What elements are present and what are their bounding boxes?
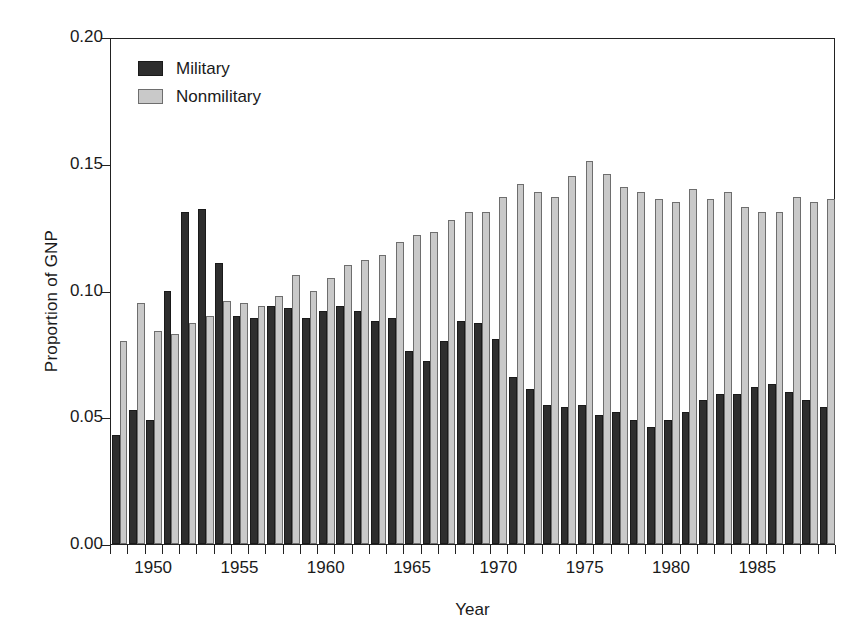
bar-military-1974: [561, 407, 569, 544]
bar-military-1965: [405, 351, 413, 544]
legend-label-nonmilitary: Nonmilitary: [176, 87, 261, 107]
x-tick-mark: [542, 545, 543, 554]
x-tick-mark: [283, 545, 284, 554]
x-tick-mark: [800, 545, 801, 554]
bar-nonmilitary-1979: [655, 199, 663, 544]
x-tick-mark: [818, 545, 819, 554]
bar-military-1978: [630, 420, 638, 544]
bar-nonmilitary-1951: [171, 334, 179, 544]
x-tick-mark: [593, 545, 594, 554]
x-tick-mark: [749, 545, 750, 554]
bar-military-1949: [129, 410, 137, 544]
bar-nonmilitary-1974: [568, 176, 576, 544]
legend-label-military: Military: [176, 59, 230, 79]
bar-military-1984: [733, 394, 741, 544]
bar-military-1980: [664, 420, 672, 544]
bar-military-1972: [526, 389, 534, 544]
bar-nonmilitary-1957: [275, 296, 283, 544]
x-tick-mark: [490, 545, 491, 554]
bar-nonmilitary-1963: [379, 255, 387, 544]
bar-nonmilitary-1988: [810, 202, 818, 544]
legend-swatch-nonmilitary-icon: [138, 89, 163, 104]
bar-military-1989: [820, 407, 828, 544]
x-tick-mark: [731, 545, 732, 554]
bar-nonmilitary-1972: [534, 192, 542, 544]
x-tick-mark: [403, 545, 404, 554]
x-tick-mark: [559, 545, 560, 554]
bar-military-1979: [647, 427, 655, 544]
bar-nonmilitary-1983: [724, 192, 732, 544]
bar-military-1982: [699, 400, 707, 544]
bar-military-1952: [181, 212, 189, 544]
x-tick-mark: [248, 545, 249, 554]
x-tick-mark: [196, 545, 197, 554]
x-tick-mark: [386, 545, 387, 554]
bar-military-1966: [423, 361, 431, 544]
bar-military-1948: [112, 435, 120, 544]
bar-nonmilitary-1984: [741, 207, 749, 544]
x-tick-mark: [127, 545, 128, 554]
x-tick-mark: [300, 545, 301, 554]
x-tick-mark: [680, 545, 681, 554]
x-tick-label-1955: 1955: [221, 558, 259, 578]
bar-military-1954: [215, 263, 223, 544]
bar-military-1957: [267, 306, 275, 544]
bar-military-1970: [492, 339, 500, 544]
bar-nonmilitary-1968: [465, 212, 473, 544]
bar-military-1950: [146, 420, 154, 544]
bar-nonmilitary-1977: [620, 187, 628, 544]
x-tick-mark: [352, 545, 353, 554]
bar-nonmilitary-1965: [413, 235, 421, 544]
bar-military-1973: [543, 405, 551, 544]
bar-nonmilitary-1961: [344, 265, 352, 544]
bar-military-1956: [250, 318, 258, 544]
x-tick-label-1970: 1970: [479, 558, 517, 578]
bar-military-1959: [302, 318, 310, 544]
y-tick-label: 0.15: [70, 154, 103, 174]
bar-military-1963: [371, 321, 379, 544]
bar-nonmilitary-1969: [482, 212, 490, 544]
bar-military-1977: [612, 412, 620, 544]
bar-nonmilitary-1959: [310, 291, 318, 545]
x-tick-mark: [317, 545, 318, 554]
bar-nonmilitary-1950: [154, 331, 162, 544]
bar-nonmilitary-1954: [223, 301, 231, 544]
bar-nonmilitary-1960: [327, 278, 335, 544]
x-tick-mark: [507, 545, 508, 554]
bar-nonmilitary-1973: [551, 197, 559, 544]
x-tick-label-1965: 1965: [393, 558, 431, 578]
x-tick-mark: [145, 545, 146, 554]
x-tick-mark: [162, 545, 163, 554]
bar-military-1986: [768, 384, 776, 544]
bar-military-1961: [336, 306, 344, 544]
x-tick-mark: [714, 545, 715, 554]
bar-military-1969: [474, 323, 482, 544]
bar-military-1976: [595, 415, 603, 544]
bar-nonmilitary-1955: [240, 303, 248, 544]
x-tick-mark: [214, 545, 215, 554]
chart-legend: Military Nonmilitary: [138, 58, 261, 114]
y-tick-label: 0.10: [70, 281, 103, 301]
legend-item-military: Military: [138, 58, 261, 79]
bar-military-1985: [751, 387, 759, 544]
bar-military-1971: [509, 377, 517, 544]
x-tick-mark: [645, 545, 646, 554]
bar-nonmilitary-1956: [258, 306, 266, 544]
x-tick-mark: [662, 545, 663, 554]
x-tick-mark: [473, 545, 474, 554]
bar-nonmilitary-1982: [707, 199, 715, 544]
x-tick-label-1950: 1950: [134, 558, 172, 578]
x-tick-mark: [369, 545, 370, 554]
y-tick-label: 0.20: [70, 27, 103, 47]
y-tick-label: 0.00: [70, 534, 103, 554]
x-axis-ticks: [110, 545, 835, 557]
bar-military-1968: [457, 321, 465, 544]
x-tick-label-1985: 1985: [738, 558, 776, 578]
x-tick-mark: [524, 545, 525, 554]
bar-nonmilitary-1985: [758, 212, 766, 544]
x-tick-mark: [110, 545, 111, 554]
x-tick-mark: [179, 545, 180, 554]
x-axis-title: Year: [110, 600, 835, 620]
bar-military-1981: [682, 412, 690, 544]
bar-nonmilitary-1980: [672, 202, 680, 544]
